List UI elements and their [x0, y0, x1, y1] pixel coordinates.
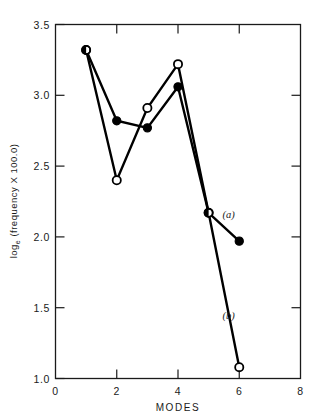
x-tick-label-0: 0 — [52, 385, 58, 397]
x-tick-label-6: 6 — [236, 385, 242, 397]
y-axis-title-suffix: (frequency X 100.0) — [8, 144, 19, 240]
y-axis-ticks-left — [56, 25, 65, 379]
data-point-b-2 — [113, 176, 121, 184]
y-tick-label-2.5: 2.5 — [34, 160, 50, 172]
data-point-b-3 — [143, 104, 151, 112]
x-tick-label-4: 4 — [175, 385, 181, 397]
y-axis-ticks-right — [292, 95, 301, 307]
data-point-shared-1 — [82, 46, 90, 54]
x-axis-ticks-top — [117, 25, 240, 34]
annotation-series-b: (b) — [222, 310, 235, 322]
data-point-a-6 — [235, 237, 243, 245]
y-axis-title: loge (frequency X 100.0) — [8, 144, 21, 259]
x-tick-label-8: 8 — [297, 385, 303, 397]
y-tick-label-2.0: 2.0 — [34, 231, 50, 243]
data-point-b-4 — [174, 60, 182, 68]
y-tick-label-3.0: 3.0 — [34, 89, 50, 101]
series-a-markers — [113, 83, 244, 246]
x-tick-label-2: 2 — [114, 385, 120, 397]
chart-figure: 3.5 3.0 2.5 2.0 1.5 1.0 0 2 4 6 8 MODES … — [0, 0, 325, 417]
data-point-a-4 — [174, 83, 182, 91]
data-point-b-6 — [235, 363, 243, 371]
data-point-a-2 — [113, 117, 121, 125]
series-b-line — [86, 50, 239, 367]
data-point-shared-5 — [205, 209, 213, 217]
data-point-a-3 — [143, 124, 151, 132]
x-axis-ticks-bottom — [117, 370, 240, 379]
svg-text:loge (frequency X 100.0): loge (frequency X 100.0) — [8, 144, 21, 259]
y-axis-title-prefix: log — [8, 244, 19, 258]
x-axis-title: MODES — [156, 402, 201, 413]
y-tick-label-1.0: 1.0 — [34, 373, 50, 385]
y-tick-label-3.5: 3.5 — [34, 19, 50, 31]
y-tick-label-1.5: 1.5 — [34, 302, 50, 314]
annotation-series-a: (a) — [222, 209, 235, 221]
